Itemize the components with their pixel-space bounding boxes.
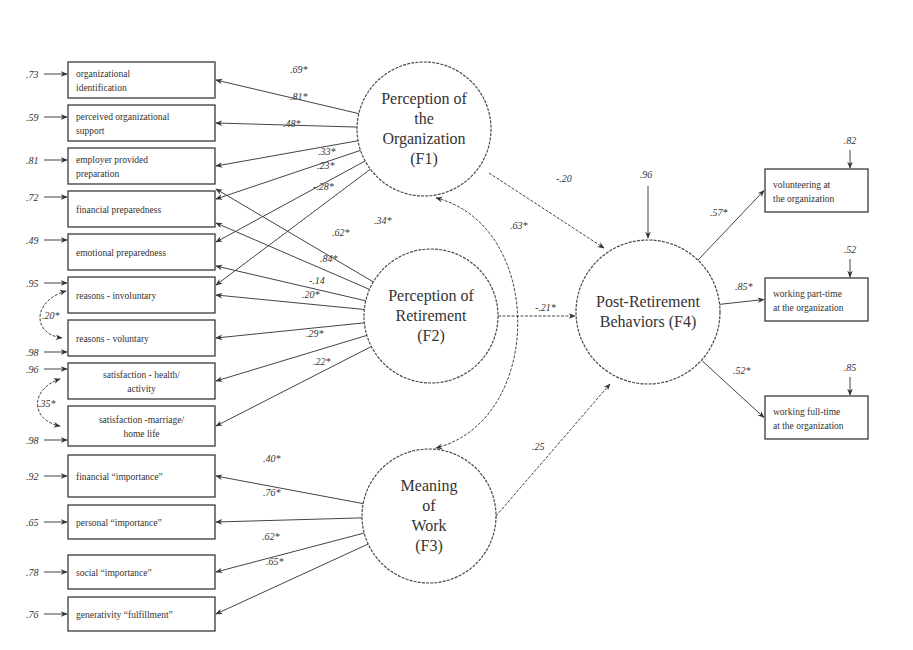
box-fin-importance: financial “importance”.92 [26, 455, 215, 497]
factor-label: Retirement [395, 307, 467, 324]
factor-label: Behaviors (F4) [600, 313, 696, 331]
latent-factors: Perception oftheOrganization(F1)Percepti… [357, 62, 720, 583]
loading-coefficient: .40* [263, 453, 281, 464]
loading-arrow-icon [216, 141, 358, 166]
box-label: financial “importance” [76, 472, 163, 482]
loading-coefficient: .20* [302, 289, 320, 300]
box-label: home life [123, 429, 159, 439]
loading-coefficient: -.28* [313, 181, 334, 192]
factor-circle [357, 62, 491, 196]
box-label: working part-time [773, 289, 842, 299]
box-label: at the organization [773, 303, 844, 313]
disturbance-variance: .96 [640, 169, 653, 180]
box-label: reasons - involuntary [76, 291, 156, 301]
box-full-time: working full-timeat the organization.85 [765, 362, 868, 439]
loading-arrow-icon [216, 544, 368, 614]
loading-coefficient: .62* [332, 227, 350, 238]
box-part-time: working part-timeat the organization.52 [765, 244, 868, 321]
box-fin-prep: financial preparedness.72 [26, 191, 215, 227]
observed-variables-left: organizationalidentification.73perceived… [26, 62, 215, 631]
box-label: the organization [773, 194, 835, 204]
loading-arrow-icon [216, 323, 364, 338]
factor-label: of [422, 497, 436, 514]
box-label: support [76, 126, 105, 136]
path-coefficient: .25 [532, 441, 545, 452]
error-variance: .81 [26, 155, 39, 166]
loading-coefficient: .23* [317, 160, 335, 171]
correlation-coefficient: .35* [38, 398, 56, 409]
loading-arrow-icon [216, 347, 371, 426]
loading-arrow-icon [216, 295, 364, 309]
box-label: perceived organizational [76, 112, 170, 122]
loading-coefficient: .76* [263, 487, 281, 498]
factor-label: Perception of [388, 287, 474, 305]
factor-label: (F2) [417, 327, 445, 345]
loading-coefficient: .85* [735, 281, 753, 292]
loading-arrow-icon [720, 300, 764, 305]
error-variance: .95 [26, 278, 39, 289]
loading-coefficient: .81* [290, 91, 308, 102]
factor-label: (F1) [410, 150, 438, 168]
loading-arrow-icon [216, 533, 364, 572]
loading-coefficient: .65* [266, 556, 284, 567]
error-variance: .65 [26, 517, 39, 528]
box-emo-prep: emotional preparedness.49 [26, 234, 215, 270]
loading-arrow-icon [216, 189, 373, 282]
factor-f3: MeaningofWork(F3) [362, 449, 496, 583]
error-variance: .76 [26, 609, 39, 620]
box-employer-prep: employer providedpreparation.81 [26, 148, 215, 184]
indicator-box [68, 406, 215, 446]
correlation-coefficient: .63* [510, 220, 528, 231]
error-variance: .52 [844, 244, 857, 255]
box-label: volunteering at [773, 180, 831, 190]
error-variance: .49 [26, 235, 39, 246]
error-variance: .73 [26, 69, 39, 80]
loading-arrow-icon [216, 150, 360, 199]
loading-coefficient: .57* [710, 207, 728, 218]
factor-label: the [414, 110, 434, 127]
correlation-coefficient: .20* [42, 310, 60, 321]
loading-coefficient: .52* [733, 365, 751, 376]
error-variance: .98 [26, 347, 39, 358]
factor-f2: Perception ofRetirement(F2) [364, 249, 498, 383]
factor-label: Organization [382, 130, 465, 148]
loading-arrow-icon [216, 518, 362, 522]
path-coefficient: -.20 [556, 173, 572, 184]
factor-label: (F3) [415, 537, 443, 555]
error-variance: .59 [26, 112, 39, 123]
error-variance: .92 [26, 471, 39, 482]
box-perc-org-support: perceived organizationalsupport.59 [26, 105, 215, 141]
box-label: satisfaction -marriage/ [99, 415, 185, 425]
error-variance: .72 [26, 192, 39, 203]
factor-label: Post-Retirement [596, 293, 701, 310]
loading-coefficient: .34* [374, 215, 392, 226]
loading-coefficient: .69* [290, 64, 308, 75]
structural-arrow-icon [496, 384, 610, 516]
loading-arrow-icon [698, 191, 764, 261]
box-label: working full-time [773, 407, 840, 417]
factor-f4: Post-RetirementBehaviors (F4) [576, 240, 720, 384]
loading-arrow-icon [216, 335, 367, 381]
box-label: personal “importance” [76, 518, 162, 528]
factor-f1: Perception oftheOrganization(F1) [357, 62, 491, 196]
loading-arrow-icon [216, 266, 366, 301]
box-label: at the organization [773, 421, 844, 431]
box-label: generativity “fulfillment” [76, 610, 173, 620]
box-label: reasons - voluntary [76, 334, 149, 344]
loading-coefficient: .33* [318, 146, 336, 157]
factor-label: Work [411, 517, 446, 534]
box-label: emotional preparedness [76, 248, 166, 258]
loading-coefficient: .84* [320, 253, 338, 264]
box-soc-importance: social “importance”.78 [26, 555, 215, 589]
loading-arrow-icon [216, 476, 363, 504]
loading-arrow-icon [216, 80, 359, 114]
box-label: satisfaction - health/ [103, 370, 180, 380]
structural-arrow-icon [489, 173, 604, 248]
error-variance: .78 [26, 567, 39, 578]
box-volunteering: volunteering atthe organization.82 [765, 135, 868, 212]
loading-coefficient: .62* [262, 531, 280, 542]
box-reasons-invol: reasons - involuntary.95 [26, 277, 215, 313]
box-label: social “importance” [76, 568, 152, 578]
sem-path-diagram: organizationalidentification.73perceived… [0, 0, 913, 650]
error-variance: .96 [26, 364, 39, 375]
